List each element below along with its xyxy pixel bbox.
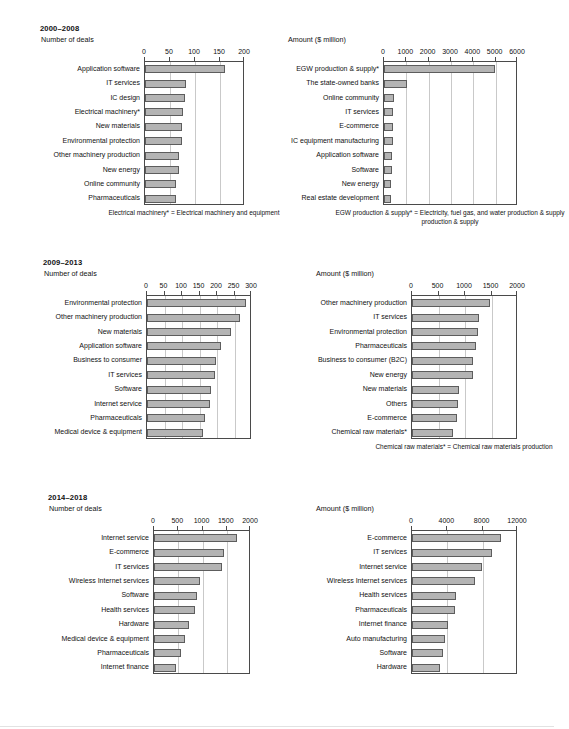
- bar-row: [412, 606, 516, 614]
- chart-footnote-line2-right: production & supply: [280, 218, 569, 225]
- bar-row: [412, 649, 516, 657]
- category-label: Health services: [101, 606, 149, 613]
- bar: [147, 299, 246, 307]
- x-tick-label: 1000: [194, 517, 210, 524]
- x-tick-label: 300: [245, 282, 257, 289]
- bar: [145, 180, 176, 188]
- bar: [412, 429, 453, 437]
- period-title: 2009–2013: [43, 258, 82, 267]
- category-label: Application software: [77, 65, 140, 72]
- x-tick-label: 5000: [487, 48, 503, 55]
- category-label: E-commerce: [109, 548, 149, 555]
- bar: [412, 328, 478, 336]
- bar: [154, 549, 224, 557]
- bar-row: [147, 386, 250, 394]
- bar-row: [412, 386, 516, 394]
- bar: [147, 429, 203, 437]
- category-label: IT services: [373, 313, 407, 320]
- bar: [384, 94, 394, 102]
- category-label: Auto manufacturing: [346, 635, 407, 642]
- x-tick-label: 2000: [420, 48, 436, 55]
- bar-row: [384, 166, 516, 174]
- category-label: Wireless Internet services: [69, 577, 149, 584]
- category-label: Pharmaceuticals: [88, 194, 140, 201]
- x-axis-tick-labels-left: 050100150200250300: [146, 279, 251, 290]
- bar: [154, 621, 189, 629]
- period-block-2009-2013: 2009–2013Number of deals0501001502002503…: [0, 258, 554, 488]
- bar-row: [412, 563, 516, 571]
- bar: [412, 592, 456, 600]
- bar-row: [384, 195, 516, 203]
- x-tick-label: 8000: [474, 517, 490, 524]
- bar-row: [154, 549, 249, 557]
- bar: [384, 195, 391, 203]
- category-label: IT services: [345, 108, 379, 115]
- bar-row: [384, 137, 516, 145]
- period-title: 2000–2008: [40, 24, 79, 33]
- x-tick-label: 250: [228, 282, 240, 289]
- period-block-2014-2018: 2014–2018Number of deals0500100015002000…: [0, 493, 554, 723]
- bar-row: [412, 621, 516, 629]
- bar-row: [145, 123, 243, 131]
- bar-row: [154, 534, 249, 542]
- bar-row: [154, 649, 249, 657]
- bar: [412, 549, 492, 557]
- bar-row: [147, 314, 250, 322]
- x-tick-label: 12000: [507, 517, 526, 524]
- category-label: Others: [386, 400, 407, 407]
- bar: [154, 649, 181, 657]
- category-label: Chemical raw materials*: [332, 428, 407, 435]
- bar: [384, 80, 407, 88]
- bar: [145, 108, 183, 116]
- x-tick-label: 100: [175, 282, 187, 289]
- category-label: IC equipment manufacturing: [291, 137, 379, 144]
- bar: [145, 94, 185, 102]
- bar-row: [145, 65, 243, 73]
- x-axis-tick-labels-right: 0500100015002000: [411, 279, 517, 290]
- bar-row: [412, 577, 516, 585]
- x-tick-label: 0: [409, 517, 413, 524]
- chart-footnote-right: Chemical raw materials* = Chemical raw m…: [294, 443, 569, 450]
- category-label: Online community: [323, 94, 379, 101]
- period-title: 2014–2018: [48, 493, 87, 502]
- bar-row: [412, 414, 516, 422]
- chart-subtitle-left: Number of deals: [41, 35, 94, 44]
- category-label: New energy: [342, 180, 379, 187]
- plot-area-left: [144, 61, 244, 205]
- category-label: Medical device & equipment: [54, 428, 142, 435]
- chart-subtitle-right: Amount ($ million): [288, 35, 346, 44]
- category-label: Internet service: [101, 534, 149, 541]
- bar: [412, 635, 445, 643]
- bar: [384, 137, 393, 145]
- bar: [412, 414, 457, 422]
- bar-row: [147, 414, 250, 422]
- bar-row: [384, 80, 516, 88]
- bar: [412, 386, 459, 394]
- bar-row: [154, 563, 249, 571]
- bar: [145, 123, 182, 131]
- category-label: Software: [114, 385, 142, 392]
- bar-row: [412, 299, 516, 307]
- bar-row: [154, 577, 249, 585]
- category-label: Health services: [359, 591, 407, 598]
- bar: [147, 371, 215, 379]
- bar: [145, 166, 179, 174]
- bar-row: [412, 314, 516, 322]
- plot-area-right: [411, 295, 517, 439]
- category-label: New materials: [96, 122, 140, 129]
- category-label: Environmental protection: [330, 328, 407, 335]
- bar-row: [384, 108, 516, 116]
- bar-row: [154, 664, 249, 672]
- bar-row: [412, 371, 516, 379]
- x-tick-label: 50: [165, 48, 173, 55]
- x-tick-label: 500: [432, 282, 444, 289]
- bar: [154, 577, 200, 585]
- bar-row: [412, 592, 516, 600]
- bar: [412, 314, 479, 322]
- category-label: Electrical machinery*: [75, 108, 140, 115]
- chart-footnote-right: EGW production & supply* = Electricity, …: [280, 209, 569, 216]
- page-bottom-rule: [0, 726, 554, 727]
- bar: [147, 314, 240, 322]
- bar: [154, 563, 222, 571]
